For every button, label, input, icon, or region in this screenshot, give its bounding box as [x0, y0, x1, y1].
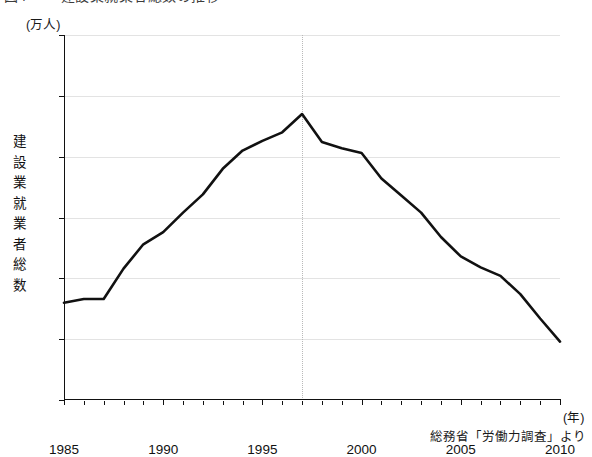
plot-area: 7507006506005505004501985199019952000200… [64, 35, 560, 400]
x-tick-mark [381, 401, 382, 405]
x-tick-mark [302, 401, 303, 405]
y-axis-unit-label: (万人) [26, 14, 60, 33]
x-tick-mark [143, 401, 144, 405]
y-axis-title-char: 総 [9, 255, 29, 276]
x-tick-mark [223, 401, 224, 405]
x-tick-mark [183, 401, 184, 405]
chart-title-text: 建設業就業者総数の推移 [61, 0, 221, 4]
y-axis-title-char: 業 [9, 214, 29, 235]
x-tick-mark [441, 401, 442, 405]
x-tick-mark [104, 401, 105, 405]
source-note: 総務省「労働力調査」より [430, 426, 586, 445]
chart-title-number: 図4 [0, 0, 61, 4]
x-tick-label: 1990 [133, 442, 193, 457]
x-tick-label: 1985 [34, 442, 94, 457]
y-axis-title-char: 数 [9, 276, 29, 297]
y-axis-title-char: 設 [9, 153, 29, 174]
y-axis-title-char: 者 [9, 235, 29, 256]
x-tick-mark [401, 401, 402, 405]
x-tick-label: 2000 [332, 442, 392, 457]
series-line-chart [64, 35, 560, 400]
series-line-path [64, 114, 560, 342]
x-tick-mark [500, 401, 501, 405]
x-tick-mark [84, 401, 85, 405]
x-tick-mark [421, 401, 422, 405]
chart-title: 図4建設業就業者総数の推移 [0, 0, 592, 5]
x-tick-mark [282, 401, 283, 405]
y-axis-title-char: 業 [9, 173, 29, 194]
x-tick-mark [322, 401, 323, 405]
x-tick-mark [243, 401, 244, 405]
y-axis-title: 建設業就業者総数 [9, 132, 29, 296]
x-tick-mark [203, 401, 204, 405]
x-tick-mark [560, 399, 561, 405]
x-tick-mark [481, 401, 482, 405]
x-tick-mark [520, 401, 521, 405]
x-axis-unit-label: (年) [563, 407, 584, 426]
x-tick-mark [124, 401, 125, 405]
y-axis-title-char: 建 [9, 132, 29, 153]
y-axis-title-char: 就 [9, 194, 29, 215]
x-tick-mark [540, 401, 541, 405]
x-tick-label: 1995 [232, 442, 292, 457]
x-tick-mark [342, 401, 343, 405]
